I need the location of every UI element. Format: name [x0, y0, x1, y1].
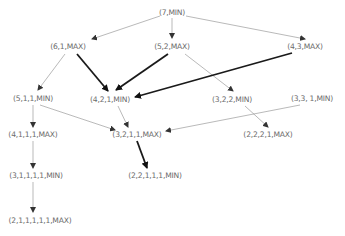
edge-arrow-bold — [137, 141, 147, 168]
tree-node: (4,2,1,MIN) — [90, 95, 130, 104]
edge-arrow — [186, 16, 305, 39]
tree-node: (2,1,1,1,1,1,MAX) — [9, 216, 72, 225]
tree-node: (6,1,MAX) — [50, 42, 86, 51]
game-tree-diagram: (7,MIN)(6,1,MAX)(5,2,MAX)(4,3,MAX)(5,1,1… — [0, 0, 345, 236]
tree-node: (3,2,1,1,MAX) — [112, 130, 161, 139]
tree-node: (2,2,2,1,MAX) — [243, 130, 292, 139]
tree-node: (2,2,1,1,1,MIN) — [128, 171, 182, 180]
edge-arrow — [38, 54, 65, 90]
edge-arrow — [166, 105, 300, 131]
tree-node: (7,MIN) — [159, 8, 185, 17]
edges-layer — [0, 0, 345, 236]
tree-node: (5,2,MAX) — [154, 42, 190, 51]
tree-node: (3,3, 1,MIN) — [291, 94, 333, 103]
edge-arrow — [118, 106, 128, 127]
edge-arrow-bold — [116, 54, 168, 90]
tree-node: (3,1,1,1,1,MIN) — [9, 171, 63, 180]
tree-node: (5,1,1,MIN) — [13, 94, 53, 103]
tree-node: (4,1,1,1,MAX) — [8, 130, 57, 139]
edge-arrow — [245, 106, 268, 127]
edge-arrow — [40, 105, 115, 130]
tree-node: (4,3,MAX) — [287, 42, 323, 51]
edge-arrow — [185, 54, 233, 91]
edge-arrow-bold — [77, 54, 108, 91]
tree-node: (3,2,2,MIN) — [212, 95, 252, 104]
edge-arrow — [92, 16, 160, 39]
